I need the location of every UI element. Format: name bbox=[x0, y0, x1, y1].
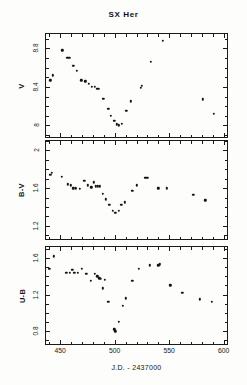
x-axis-major-tick bbox=[60, 340, 61, 344]
y-axis-major-tick bbox=[46, 226, 50, 227]
data-point bbox=[98, 88, 100, 90]
x-axis-minor-tick bbox=[180, 135, 181, 138]
data-point bbox=[204, 199, 206, 201]
x-axis-minor-tick bbox=[82, 135, 83, 138]
x-axis-minor-tick bbox=[147, 34, 148, 37]
data-point bbox=[49, 79, 51, 81]
data-point bbox=[137, 268, 139, 270]
x-axis-major-tick bbox=[115, 235, 116, 239]
x-axis-major-tick bbox=[60, 141, 61, 145]
y-axis-major-tick bbox=[223, 150, 227, 151]
x-axis-minor-tick bbox=[49, 237, 50, 240]
page-title: SX Her bbox=[0, 10, 247, 19]
x-axis-minor-tick bbox=[104, 237, 105, 240]
y-axis-minor-tick bbox=[46, 58, 49, 59]
y-axis-tick-label: 1.2 bbox=[30, 223, 44, 230]
data-point bbox=[157, 187, 159, 189]
x-axis-minor-tick bbox=[147, 141, 148, 144]
data-point bbox=[192, 194, 194, 196]
x-axis-minor-tick bbox=[49, 342, 50, 345]
y-axis-minor-tick bbox=[46, 106, 49, 107]
x-axis-minor-tick bbox=[93, 247, 94, 250]
x-axis-minor-tick bbox=[202, 237, 203, 240]
data-point bbox=[79, 188, 81, 190]
x-axis-minor-tick bbox=[93, 34, 94, 37]
x-axis-minor-tick bbox=[191, 342, 192, 345]
data-point bbox=[87, 184, 89, 186]
x-axis-major-tick bbox=[60, 34, 61, 38]
data-point bbox=[114, 211, 116, 213]
x-axis-minor-tick bbox=[202, 247, 203, 250]
data-point bbox=[75, 69, 77, 71]
data-point bbox=[69, 184, 71, 186]
y-axis-minor-tick bbox=[225, 313, 228, 314]
x-axis-minor-tick bbox=[213, 135, 214, 138]
x-axis-minor-tick bbox=[213, 237, 214, 240]
x-axis-minor-tick bbox=[213, 247, 214, 250]
x-axis-minor-tick bbox=[147, 247, 148, 250]
y-axis-major-tick bbox=[223, 188, 227, 189]
data-point bbox=[117, 321, 119, 323]
x-axis-minor-tick bbox=[49, 34, 50, 37]
x-axis-minor-tick bbox=[93, 342, 94, 345]
y-axis-minor-tick bbox=[46, 207, 49, 208]
data-point bbox=[99, 185, 101, 187]
x-axis-minor-tick bbox=[191, 237, 192, 240]
data-point bbox=[135, 184, 137, 186]
data-point bbox=[85, 272, 87, 274]
data-point bbox=[149, 61, 151, 63]
data-point bbox=[211, 301, 213, 303]
x-axis-tick-label: 600 bbox=[218, 347, 229, 354]
y-axis-minor-tick bbox=[225, 106, 228, 107]
x-axis-minor-tick bbox=[126, 141, 127, 144]
light-curve-figure: SX Her 88.48.8V 1.21.62B-V 0.81.21.6U-B4… bbox=[0, 0, 247, 385]
panel-b-minus-v: 1.21.62B-V bbox=[45, 140, 228, 240]
data-point bbox=[91, 86, 93, 88]
x-axis-tick-label: 450 bbox=[54, 347, 65, 354]
x-axis-minor-tick bbox=[126, 342, 127, 345]
x-axis-major-tick bbox=[224, 133, 225, 137]
x-axis-minor-tick bbox=[71, 247, 72, 250]
x-axis-major-tick bbox=[224, 141, 225, 145]
y-axis-minor-tick bbox=[46, 340, 49, 341]
x-axis-major-tick bbox=[224, 34, 225, 38]
data-point bbox=[199, 298, 201, 300]
data-point bbox=[81, 268, 83, 270]
y-axis-major-tick bbox=[46, 48, 50, 49]
x-axis-minor-tick bbox=[104, 34, 105, 37]
y-axis-minor-tick bbox=[225, 276, 228, 277]
x-axis-major-tick bbox=[115, 34, 116, 38]
y-axis-minor-tick bbox=[225, 58, 228, 59]
data-point bbox=[87, 83, 89, 85]
data-point bbox=[101, 193, 103, 195]
y-axis-major-tick bbox=[223, 87, 227, 88]
y-axis-major-tick bbox=[223, 331, 227, 332]
data-point bbox=[181, 292, 183, 294]
data-point bbox=[104, 279, 106, 281]
y-axis-major-tick bbox=[46, 188, 50, 189]
plot-area-v bbox=[46, 34, 227, 137]
y-axis-minor-tick bbox=[225, 285, 228, 286]
x-axis-minor-tick bbox=[71, 141, 72, 144]
data-point bbox=[65, 271, 67, 273]
data-point bbox=[110, 115, 112, 117]
x-axis-major-tick bbox=[169, 141, 170, 145]
plot-area-bv bbox=[46, 141, 227, 239]
x-axis-minor-tick bbox=[49, 247, 50, 250]
data-point bbox=[89, 280, 91, 282]
x-axis-minor-tick bbox=[82, 247, 83, 250]
y-axis-major-tick bbox=[223, 258, 227, 259]
data-point bbox=[90, 186, 92, 188]
x-axis-minor-tick bbox=[71, 135, 72, 138]
x-axis-major-tick bbox=[169, 247, 170, 251]
x-axis-major-tick bbox=[224, 340, 225, 344]
x-axis-major-tick bbox=[115, 340, 116, 344]
y-axis-minor-tick bbox=[46, 276, 49, 277]
x-axis-minor-tick bbox=[126, 237, 127, 240]
data-point bbox=[52, 255, 54, 257]
data-point bbox=[102, 97, 104, 99]
x-axis-minor-tick bbox=[191, 141, 192, 144]
data-point bbox=[213, 113, 215, 115]
y-axis-tick-label: 0.8 bbox=[30, 328, 44, 335]
x-axis-minor-tick bbox=[104, 135, 105, 138]
